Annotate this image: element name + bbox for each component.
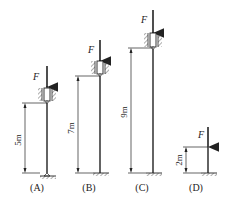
ground-hatch-icon	[146, 173, 162, 176]
wall-hatch-icon	[38, 88, 42, 101]
sleeve-icon	[97, 61, 103, 74]
wall-hatch-icon	[91, 61, 95, 74]
column-a: F 5m (A)	[13, 66, 56, 194]
force-label: F	[140, 14, 148, 25]
sleeve-icon	[44, 88, 50, 101]
wall-hatch-icon	[105, 61, 109, 74]
wall-hatch-icon	[158, 33, 162, 47]
ground-hatch-icon	[93, 173, 109, 176]
column-c: F 9m (C)	[119, 10, 162, 194]
force-label: F	[87, 44, 95, 55]
ground-hatch-icon	[201, 173, 217, 176]
wall-hatch-icon	[144, 33, 148, 47]
sleeve-icon	[150, 33, 156, 47]
caption-a: (A)	[30, 182, 44, 194]
ground-hatch-icon	[40, 176, 56, 179]
force-label: F	[32, 71, 40, 82]
column-buckling-diagram: F 5m (A) F	[0, 0, 229, 205]
length-label: 5m	[13, 134, 23, 146]
caption-b: (B)	[82, 182, 95, 194]
force-label: F	[197, 129, 205, 140]
length-label: 9m	[119, 106, 129, 118]
caption-c: (C)	[135, 182, 148, 194]
caption-d: (D)	[189, 182, 203, 194]
length-label: 7m	[66, 122, 76, 134]
wall-hatch-icon	[52, 88, 56, 101]
column-d: F 2m (D)	[174, 127, 217, 194]
column-b: F 7m (B)	[66, 40, 109, 194]
length-label: 2m	[174, 154, 184, 166]
